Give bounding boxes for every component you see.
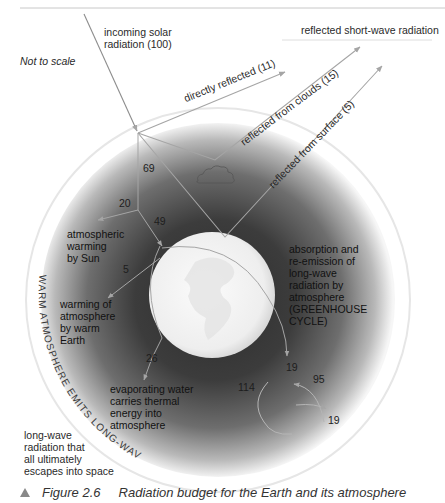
value-20: 20 (119, 197, 131, 209)
label-line: CYCLE) (289, 315, 367, 327)
label-line: atmosphere (289, 291, 367, 303)
scale-note: Not to scale (20, 55, 75, 67)
label-line: atmosphere (60, 310, 115, 322)
label-line: by warm (60, 322, 115, 334)
atm-sun-label: atmospheric warming by Sun (67, 228, 124, 264)
value-26: 26 (146, 352, 158, 364)
value-5: 5 (123, 263, 129, 275)
value-69: 69 (143, 162, 155, 174)
evaporation-label: evaporating water carries thermal energy… (110, 383, 193, 431)
greenhouse-label: absorption and re-emission of long-wave … (289, 243, 367, 327)
label-line: evaporating water (110, 383, 193, 395)
figure-caption: Figure 2.6Radiation budget for the Earth… (20, 485, 406, 500)
escape-label: long-wave radiation that all ultimately … (24, 429, 114, 477)
label-line: warming (67, 240, 124, 252)
reflected-header: reflected short-wave radiation (301, 24, 439, 36)
label-line: by Sun (67, 252, 124, 264)
caption-text: Radiation budget for the Earth and its a… (119, 485, 407, 500)
incoming-label-line: radiation (100) (104, 38, 172, 50)
radiation-budget-diagram: WARM ATMOSPHERE EMITS LONG-WAVE RADIATIO… (0, 0, 445, 503)
label-line: all ultimately (24, 453, 114, 465)
label-line: long-wave (24, 429, 114, 441)
label-line: (GREENHOUSE (289, 303, 367, 315)
value-49: 49 (154, 215, 166, 227)
atm-earth-label: warming of atmosphere by warm Earth (60, 298, 115, 346)
value-19-escaped: 19 (328, 414, 340, 426)
label-line: carries thermal (110, 395, 193, 407)
value-95: 95 (313, 373, 325, 385)
label-line: atmospheric (67, 228, 124, 240)
incoming-label-line: incoming solar (104, 26, 172, 38)
label-line: Earth (60, 334, 115, 346)
label-line: energy into (110, 407, 193, 419)
label-line: absorption and (289, 243, 367, 255)
label-line: escapes into space (24, 465, 114, 477)
label-line: re-emission of (289, 255, 367, 267)
caption-number: Figure 2.6 (42, 485, 101, 500)
value-114: 114 (238, 381, 255, 393)
label-line: long-wave (289, 267, 367, 279)
caption-triangle-icon (20, 488, 30, 497)
incoming-label: incoming solar radiation (100) (104, 26, 172, 50)
value-19-emitted: 19 (286, 361, 298, 373)
label-line: warming of (60, 298, 115, 310)
label-line: atmosphere (110, 419, 193, 431)
label-line: radiation by (289, 279, 367, 291)
label-line: radiation that (24, 441, 114, 453)
